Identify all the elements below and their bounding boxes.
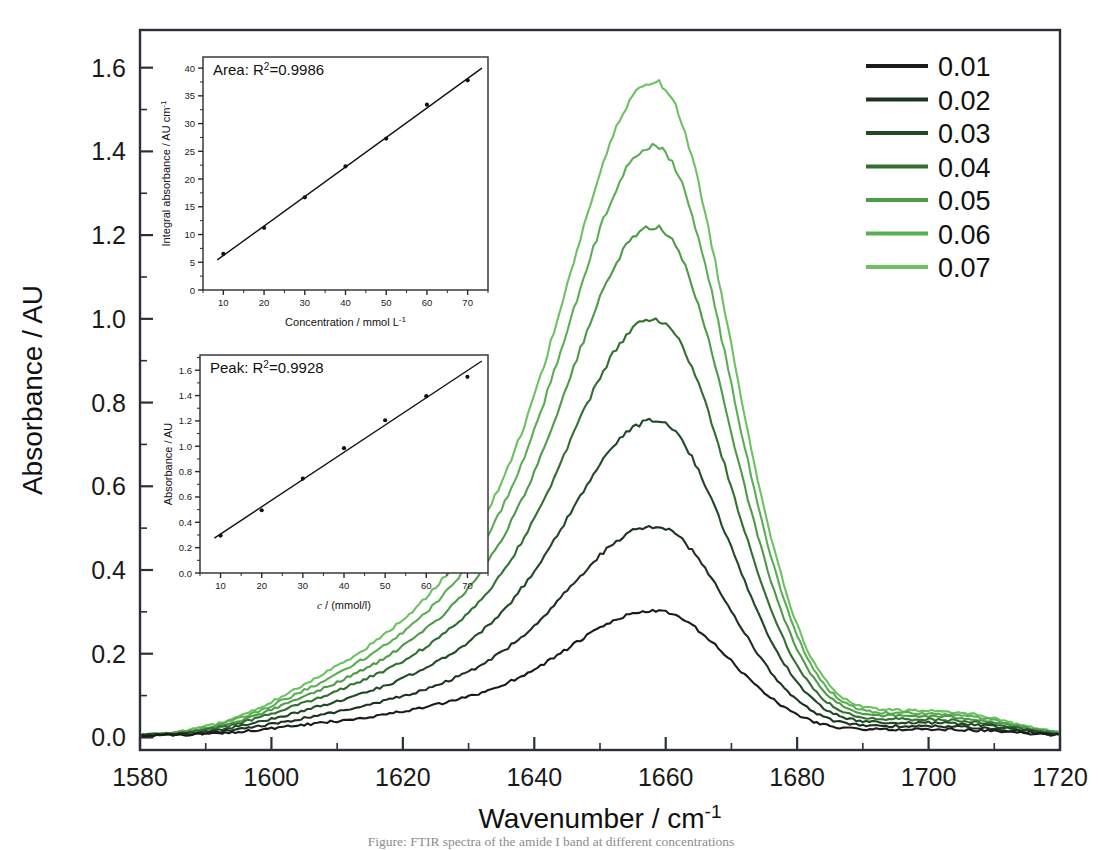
y-tick-label: 0.2 (91, 640, 126, 668)
inset-y-tick-label: 1.2 (179, 415, 192, 426)
x-tick-label: 1660 (638, 763, 694, 791)
figure-caption: Figure: FTIR spectra of the amide I band… (0, 834, 1102, 850)
inset-data-point (221, 252, 225, 256)
inset-y-tick-label: 35 (184, 90, 195, 101)
inset-x-tick-label: 30 (299, 297, 310, 308)
inset-data-point (262, 226, 266, 230)
inset-y-axis-title: Integral absorbance / AU cm-1 (159, 100, 173, 246)
inset-data-point (260, 508, 264, 512)
y-tick-label: 0.0 (91, 723, 126, 751)
legend-label: 0.02 (938, 86, 991, 116)
x-tick-label: 1620 (375, 763, 431, 791)
inset-data-point (301, 476, 305, 480)
inset-annotation: Area: R2=0.9986 (213, 61, 324, 79)
inset-y-tick-label: 20 (184, 174, 195, 185)
legend-label: 0.05 (938, 186, 991, 216)
x-tick-label: 1580 (112, 763, 168, 791)
inset-x-tick-label: 10 (218, 297, 229, 308)
inset-data-point (425, 103, 429, 107)
inset-data-point (383, 418, 387, 422)
inset-x-tick-label: 70 (462, 580, 473, 591)
inset-y-axis-title: Absorbance / AU (162, 423, 174, 506)
inset-y-tick-label: 25 (184, 146, 195, 157)
x-tick-label: 1720 (1032, 763, 1088, 791)
figure-root: 15801600162016401660168017001720Wavenumb… (0, 0, 1102, 850)
x-tick-label: 1700 (901, 763, 957, 791)
legend-label: 0.03 (938, 119, 991, 149)
inset-y-tick-label: 0.2 (179, 542, 192, 553)
inset-x-tick-label: 50 (380, 580, 391, 591)
inset-x-tick-label: 70 (462, 297, 473, 308)
legend-label: 0.04 (938, 153, 991, 183)
inset-y-tick-label: 10 (184, 229, 195, 240)
y-tick-label: 1.6 (91, 54, 126, 82)
legend-label: 0.06 (938, 220, 991, 250)
y-tick-label: 1.0 (91, 305, 126, 333)
inset-x-axis-title: Concentration / mmol L-1 (285, 315, 406, 329)
y-tick-label: 0.8 (91, 389, 126, 417)
inset-y-tick-label: 1.6 (179, 365, 192, 376)
inset-x-tick-label: 20 (256, 580, 267, 591)
inset-x-tick-label: 40 (340, 297, 351, 308)
inset-y-tick-label: 0.6 (179, 491, 192, 502)
inset-x-tick-label: 20 (259, 297, 270, 308)
inset-y-tick-label: 0.4 (179, 517, 192, 528)
inset-y-tick-label: 0.0 (179, 568, 192, 579)
inset-y-tick-label: 1.4 (179, 390, 192, 401)
inset-y-tick-label: 30 (184, 118, 195, 129)
inset-x-axis-title: c / (mmol/l) (317, 599, 371, 611)
x-tick-label: 1600 (244, 763, 300, 791)
legend-label: 0.01 (938, 52, 991, 82)
inset-peak-calibration: 102030405060700.00.20.40.60.81.01.21.41.… (162, 355, 488, 611)
inset-x-tick-label: 50 (381, 297, 392, 308)
inset-y-tick-label: 1.0 (179, 441, 192, 452)
legend-label: 0.07 (938, 253, 991, 283)
y-tick-label: 1.4 (91, 137, 126, 165)
spectrum-chart: 15801600162016401660168017001720Wavenumb… (0, 0, 1102, 850)
y-tick-label: 0.4 (91, 556, 126, 584)
inset-data-point (343, 164, 347, 168)
inset-data-point (465, 375, 469, 379)
inset-y-tick-label: 15 (184, 201, 195, 212)
inset-data-point (384, 136, 388, 140)
inset-data-point (218, 534, 222, 538)
inset-area-calibration: 102030405060700510152025303540Area: R2=0… (159, 57, 489, 328)
x-tick-label: 1680 (769, 763, 825, 791)
inset-frame (200, 355, 488, 573)
x-axis-title: Wavenumber / cm-1 (478, 801, 721, 835)
y-axis-title: Absorbance / AU (17, 285, 48, 495)
inset-y-tick-label: 0.8 (179, 466, 192, 477)
inset-data-point (303, 195, 307, 199)
y-tick-label: 0.6 (91, 472, 126, 500)
inset-y-tick-label: 40 (184, 63, 195, 74)
inset-x-tick-label: 30 (298, 580, 309, 591)
inset-y-tick-label: 0 (190, 285, 195, 296)
inset-x-tick-label: 40 (339, 580, 350, 591)
inset-x-tick-label: 10 (215, 580, 226, 591)
inset-y-tick-label: 5 (190, 257, 195, 268)
x-tick-label: 1640 (506, 763, 562, 791)
inset-x-tick-label: 60 (421, 580, 432, 591)
inset-data-point (466, 78, 470, 82)
y-tick-label: 1.2 (91, 221, 126, 249)
inset-data-point (342, 446, 346, 450)
inset-frame (203, 57, 488, 290)
inset-data-point (424, 394, 428, 398)
inset-x-tick-label: 60 (422, 297, 433, 308)
